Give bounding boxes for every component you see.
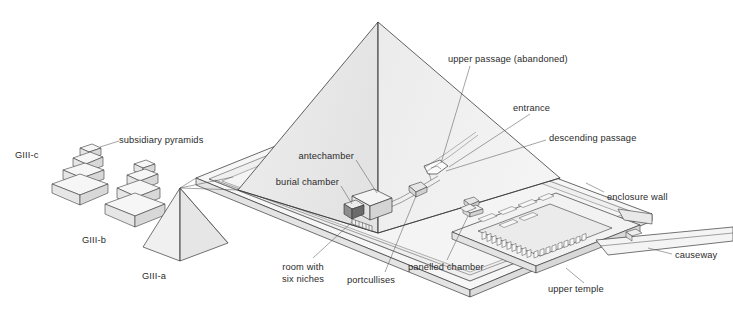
- diagram-canvas: subsidiary pyramids GIII-c GIII-b GIII-a…: [0, 0, 733, 310]
- subsidiary-pyramid-giii-b: [105, 160, 165, 227]
- label-giii-c: GIII-c: [15, 150, 39, 160]
- label-causeway: causeway: [675, 250, 718, 260]
- label-giii-a: GIII-a: [142, 271, 167, 281]
- label-antechamber: antechamber: [298, 151, 354, 161]
- pyramid-complex-diagram: subsidiary pyramids GIII-c GIII-b GIII-a…: [0, 0, 733, 310]
- label-giii-b: GIII-b: [82, 235, 106, 245]
- label-burial-chamber: burial chamber: [276, 177, 339, 187]
- label-upper-temple: upper temple: [548, 284, 604, 294]
- label-room-with-six-niches-line1: room with: [282, 262, 323, 272]
- label-subsidiary-pyramids: subsidiary pyramids: [119, 135, 204, 145]
- label-upper-passage: upper passage (abandoned): [448, 54, 568, 64]
- label-descending-passage: descending passage: [549, 133, 636, 143]
- label-enclosure-wall: enclosure wall: [607, 192, 668, 202]
- label-portcullises: portcullises: [347, 275, 395, 285]
- label-room-with-six-niches-line2: six niches: [282, 274, 324, 284]
- label-entrance: entrance: [513, 103, 550, 113]
- label-panelled-chamber: panelled chamber: [408, 262, 484, 272]
- subsidiary-pyramid-giii-c: [52, 144, 108, 205]
